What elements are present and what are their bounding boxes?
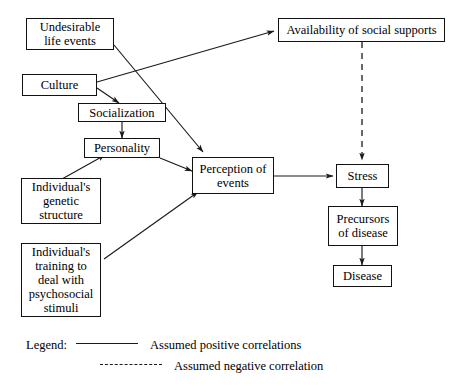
legend-solid-line-sample [76,343,138,344]
edge-genetic-to-personality [62,155,105,179]
node-culture[interactable]: Culture [22,74,97,96]
node-stress[interactable]: Stress [336,164,389,188]
node-perception-of-events[interactable]: Perception of events [192,157,274,194]
legend-positive-label: Assumed positive correlations [150,338,301,352]
legend: Legend: Assumed positive correlations As… [26,332,426,382]
node-availability-of-social-supports[interactable]: Availability of social supports [278,18,445,42]
edge-culture-to-socialization [97,88,119,103]
legend-dashed-line-sample [100,364,162,365]
node-socialization[interactable]: Socialization [78,103,166,122]
edge-personality-to-perception [160,158,192,171]
node-disease[interactable]: Disease [333,265,392,287]
legend-negative-label: Assumed negative correlation [174,359,323,373]
diagram-canvas: Undesirable life events Culture Socializ… [0,0,462,392]
node-individuals-training[interactable]: Individual's training to deal with psych… [21,243,101,317]
legend-row-negative: Assumed negative correlation [100,358,323,376]
node-undesirable-life-events[interactable]: Undesirable life events [26,18,114,50]
edge-training-to-perception [104,192,198,259]
node-precursors-of-disease[interactable]: Precursors of disease [328,206,398,246]
legend-row-positive: Assumed positive correlations [76,337,301,355]
edge-undesirable-to-perception [114,45,203,152]
node-personality[interactable]: Personality [84,138,160,158]
node-individuals-genetic-structure[interactable]: Individual's genetic structure [21,178,101,224]
legend-title: Legend: [26,338,67,353]
